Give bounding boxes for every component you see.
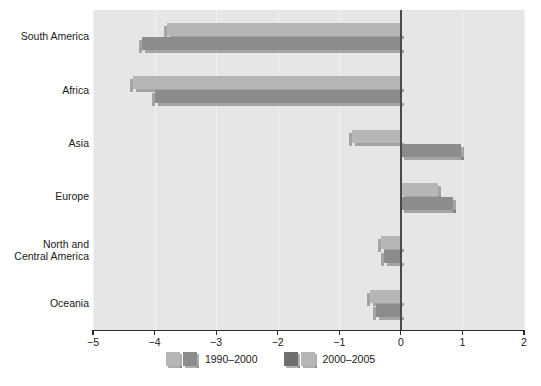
legend-swatch-face: [301, 352, 315, 366]
bar-face: [401, 144, 461, 157]
bar-1990-2000-europe[interactable]: [401, 183, 438, 196]
bar-2000-2005-north-and-central-america[interactable]: [384, 250, 401, 263]
x-tick-label: 0: [398, 336, 404, 348]
legend-swatch-face: [284, 352, 298, 366]
bar-shadow-side: [378, 239, 381, 252]
bar-face: [376, 304, 401, 317]
category-label-south-america: South America: [21, 30, 89, 42]
bar-1990-2000-africa[interactable]: [133, 76, 401, 89]
category-label-asia: Asia: [69, 137, 89, 149]
chart-figure: South AmericaAfricaAsiaEuropeNorth and C…: [0, 0, 541, 386]
x-tick: [462, 330, 463, 335]
gridline: [524, 10, 525, 330]
bar-2000-2005-asia[interactable]: [401, 144, 461, 157]
x-tick-label: −3: [210, 336, 222, 348]
bar-shadow-bottom: [404, 157, 464, 160]
bar-face: [133, 76, 401, 89]
category-label-africa: Africa: [62, 84, 89, 96]
bar-face: [381, 236, 401, 249]
x-tick: [523, 330, 524, 335]
legend-swatch-face: [183, 352, 197, 366]
legend-swatch: [301, 352, 315, 366]
bar-face: [352, 130, 401, 143]
x-tick: [154, 330, 155, 335]
legend-item-2[interactable]: 2000–2005: [284, 352, 376, 366]
bar-face: [384, 250, 401, 263]
x-tick: [400, 330, 401, 335]
legend-swatch-shadow-side: [197, 354, 199, 368]
bar-shadow-side: [349, 133, 352, 146]
legend-swatch: [284, 352, 298, 366]
x-tick-label: 2: [521, 336, 527, 348]
bar-face: [142, 37, 401, 50]
bar-shadow-side: [453, 200, 456, 213]
bar-face: [401, 197, 453, 210]
bar-shadow-side: [152, 93, 155, 106]
x-tick-label: 1: [459, 336, 465, 348]
x-tick-label: −4: [149, 336, 161, 348]
x-tick-label: −1: [333, 336, 345, 348]
legend-swatch-shadow-side: [315, 354, 317, 368]
x-tick: [92, 330, 93, 335]
x-tick-label: −2: [272, 336, 284, 348]
bar-face: [167, 23, 401, 36]
legend-swatch-shadow-side: [180, 354, 182, 368]
x-tick: [216, 330, 217, 335]
bar-shadow-bottom: [404, 210, 456, 213]
chart-legend: 1990–20002000–2005: [0, 352, 541, 366]
plot-area: [93, 10, 524, 330]
bar-1990-2000-north-and-central-america[interactable]: [381, 236, 401, 249]
bar-row: [93, 10, 524, 63]
bar-face: [155, 90, 401, 103]
bar-1990-2000-asia[interactable]: [352, 130, 401, 143]
zero-axis-line: [400, 10, 401, 330]
legend-swatch: [166, 352, 180, 366]
category-label-europe: Europe: [55, 190, 89, 202]
x-axis-line: [93, 330, 524, 331]
bar-row: [93, 117, 524, 170]
bar-1990-2000-south-america[interactable]: [167, 23, 401, 36]
bar-2000-2005-oceania[interactable]: [376, 304, 401, 317]
bar-shadow-side: [367, 293, 370, 306]
bar-row: [93, 170, 524, 223]
bar-shadow-bottom: [158, 103, 404, 106]
bar-shadow-side: [381, 253, 384, 266]
bar-face: [370, 290, 401, 303]
legend-label: 1990–2000: [205, 353, 258, 365]
bar-2000-2005-europe[interactable]: [401, 197, 453, 210]
bar-shadow-side: [461, 147, 464, 160]
bar-row: [93, 63, 524, 116]
bar-1990-2000-oceania[interactable]: [370, 290, 401, 303]
legend-swatch-pair: [284, 352, 317, 366]
bar-row: [93, 277, 524, 330]
legend-swatch: [183, 352, 197, 366]
bar-face: [401, 183, 438, 196]
bar-shadow-side: [130, 79, 133, 92]
legend-item-1[interactable]: 1990–2000: [166, 352, 258, 366]
bar-shadow-side: [373, 307, 376, 320]
legend-label: 2000–2005: [323, 353, 376, 365]
x-tick: [277, 330, 278, 335]
bar-row: [93, 223, 524, 276]
category-label-oceania: Oceania: [50, 297, 89, 309]
bar-2000-2005-africa[interactable]: [155, 90, 401, 103]
bar-shadow-side: [139, 40, 142, 53]
bar-shadow-bottom: [145, 50, 404, 53]
bar-2000-2005-south-america[interactable]: [142, 37, 401, 50]
legend-swatch-shadow-side: [298, 354, 300, 368]
legend-swatch-face: [166, 352, 180, 366]
category-label-north-and-central-america: North and Central America: [14, 238, 89, 262]
legend-swatch-pair: [166, 352, 199, 366]
x-tick-label: −5: [87, 336, 99, 348]
x-tick: [339, 330, 340, 335]
bar-shadow-bottom: [355, 143, 404, 146]
